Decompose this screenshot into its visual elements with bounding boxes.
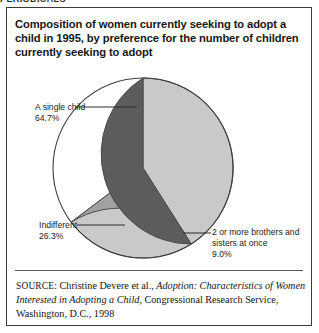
callout-indifferent: Indifferent 26.3% (39, 220, 77, 242)
callout-value-two-or-more: 9.0% (212, 249, 308, 260)
running-head-text: PERIODICALS (0, 0, 150, 4)
figure-title: Composition of women currently seeking t… (15, 17, 303, 60)
callout-value-indifferent: 26.3% (39, 231, 77, 242)
source-divider (15, 270, 303, 271)
callout-two-or-more: 2 or more brothers and sisters at once 9… (212, 227, 308, 260)
callout-a-single-child: A single child 64.7% (35, 102, 85, 124)
running-head: PERIODICALS (0, 0, 150, 5)
figure-frame: Composition of women currently seeking t… (6, 7, 312, 326)
source-note: SOURCE: Christine Devere et al., Adoptio… (16, 279, 306, 321)
callout-label-single-child: A single child (35, 102, 85, 112)
callout-value-single-child: 64.7% (35, 113, 85, 124)
callout-label-two-or-more-line2: sisters at once (212, 238, 308, 249)
source-label: SOURCE: (16, 281, 57, 291)
callout-label-indifferent: Indifferent (39, 220, 77, 230)
pie-chart: A single child 64.7% Indifferent 26.3% 2… (7, 58, 311, 270)
source-author: Christine Devere et al., (57, 280, 156, 291)
callout-label-two-or-more-line1: 2 or more brothers and (212, 227, 299, 237)
